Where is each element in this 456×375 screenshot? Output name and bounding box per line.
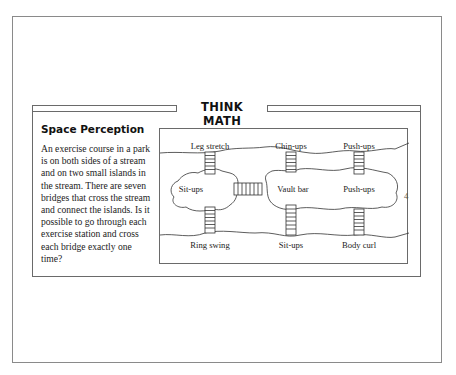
bridge-4 — [234, 183, 262, 195]
bridge-7 — [354, 209, 364, 235]
exercise-course-diagram: Leg stretch Chin-ups Push-ups Sit-ups Va… — [159, 128, 408, 264]
bridge-5 — [205, 207, 215, 233]
station-leg-stretch: Leg stretch — [191, 141, 229, 151]
edge-mark: 4 — [404, 191, 409, 201]
station-chin-ups: Chin-ups — [275, 141, 307, 151]
station-sit-ups-island: Sit-ups — [179, 184, 203, 194]
station-sit-ups-bottom: Sit-ups — [279, 240, 303, 250]
header-bar-right — [267, 105, 421, 112]
bridge-6 — [286, 205, 296, 235]
station-vault-bar: Vault bar — [277, 184, 308, 194]
station-body-curl: Body curl — [342, 240, 376, 250]
station-ring-swing: Ring swing — [190, 240, 229, 250]
bottom-riverbank — [160, 231, 409, 237]
bridge-3 — [354, 152, 364, 174]
header-bar-left — [32, 105, 177, 112]
section-title: Space Perception — [41, 123, 144, 135]
header-title: THINK MATH — [181, 100, 263, 128]
station-push-ups-island: Push-ups — [343, 184, 375, 194]
problem-text: An exercise course in a park is on both … — [41, 143, 153, 265]
bridge-1 — [205, 152, 215, 174]
station-push-ups-top: Push-ups — [343, 141, 375, 151]
bridge-2 — [286, 152, 296, 172]
